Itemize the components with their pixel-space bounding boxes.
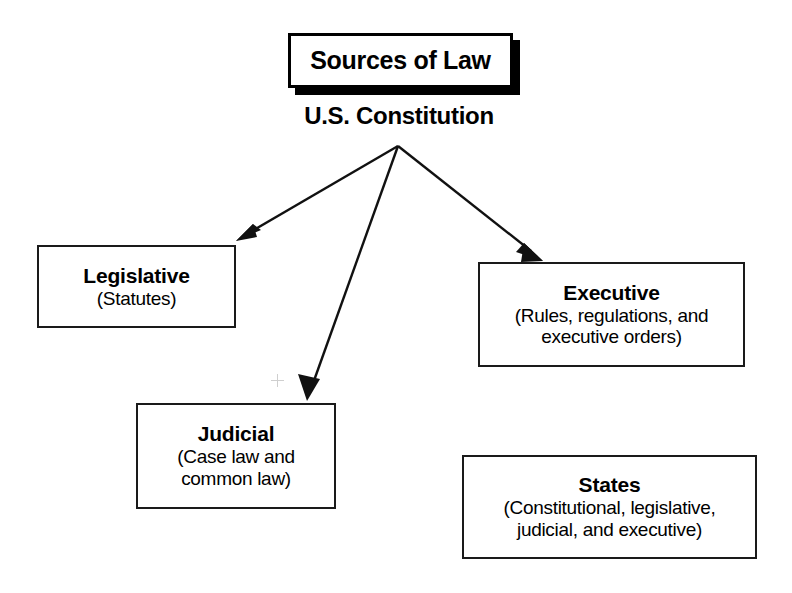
arrow-constitution-to-legislative [236, 146, 398, 241]
node-executive-subtitle-line-2: executive orders) [541, 326, 682, 348]
node-states: States (Constitutional, legislative, jud… [462, 455, 757, 559]
node-judicial-subtitle-line-2: common law) [181, 468, 291, 490]
node-legislative: Legislative (Statutes) [37, 245, 236, 328]
node-legislative-title: Legislative [83, 264, 189, 288]
node-states-title: States [579, 473, 641, 497]
node-executive-subtitle-line-1: (Rules, regulations, and [515, 305, 708, 327]
arrow-constitution-to-judicial [298, 146, 398, 401]
diagram-title-text: Sources of Law [310, 46, 491, 75]
arrow-constitution-to-executive [398, 146, 543, 262]
node-judicial: Judicial (Case law and common law) [136, 403, 336, 509]
node-executive-title: Executive [563, 281, 659, 305]
diagram-title-box: Sources of Law [288, 33, 513, 88]
root-node-us-constitution: U.S. Constitution [268, 102, 530, 130]
node-executive: Executive (Rules, regulations, and execu… [478, 262, 745, 367]
node-states-subtitle-line-1: (Constitutional, legislative, [503, 497, 715, 519]
node-judicial-subtitle-line-1: (Case law and [177, 446, 295, 468]
registration-cross-mark [271, 374, 284, 387]
node-judicial-title: Judicial [198, 422, 275, 446]
node-legislative-subtitle-line-1: (Statutes) [97, 288, 176, 310]
diagram-canvas: Sources of Law U.S. Constitution Legisla… [0, 0, 792, 593]
node-states-subtitle-line-2: judicial, and executive) [517, 519, 702, 541]
